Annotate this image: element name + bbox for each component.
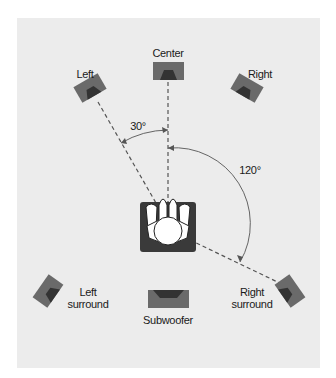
front-angle-label: 30° [124,120,152,132]
left-surround-speaker-icon [33,274,64,307]
right-label: Right [243,68,277,80]
right-surround-label-line2: surround [230,298,274,310]
surround-angle-label: 120° [233,164,267,176]
subwoofer-label: Subwoofer [140,314,196,326]
left-label: Left [70,68,100,80]
right-surround-label-line1: Right [230,286,274,298]
subwoofer-icon [148,290,189,308]
right-surround-guide-line [190,240,290,288]
right-surround-label: Right surround [230,286,274,310]
center-label: Center [150,47,186,59]
left-surround-label-line1: Left [66,286,110,298]
left-guide-line [98,102,160,210]
left-surround-label: Left surround [66,286,110,310]
listener-icon [140,199,196,252]
left-surround-label-line2: surround [66,298,110,310]
center-speaker-icon [153,62,184,80]
right-surround-speaker-icon [275,274,306,307]
